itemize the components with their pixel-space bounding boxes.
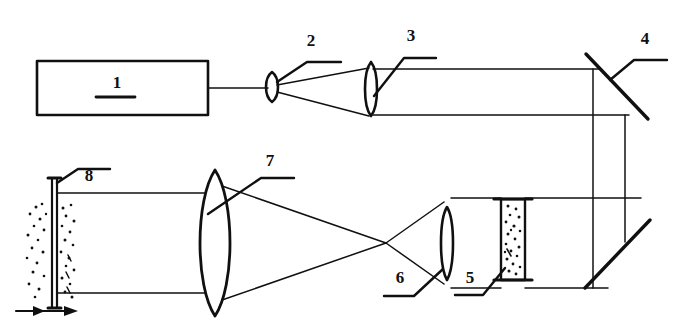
lens-2 xyxy=(266,72,278,102)
label-4: 4 xyxy=(641,29,650,48)
screen-particle-cloud xyxy=(26,203,76,299)
label-6: 6 xyxy=(396,268,405,287)
beam-cell-to-lens6 xyxy=(451,198,501,288)
optical-diagram-figure: 1 2 3 4 5 6 7 8 xyxy=(0,0,685,328)
diagram-canvas: 1 2 3 4 5 6 7 8 xyxy=(0,0,685,328)
leader-line-8 xyxy=(57,169,110,183)
leader-line-4 xyxy=(610,60,667,80)
label-3: 3 xyxy=(407,26,416,45)
laser-source-box xyxy=(37,61,208,115)
sample-cell-particles xyxy=(504,205,522,276)
label-5: 5 xyxy=(466,268,475,287)
beam-cone-lens2-to-lens3 xyxy=(277,68,369,116)
label-2: 2 xyxy=(307,31,316,50)
mirror-4 xyxy=(586,54,648,119)
label-8: 8 xyxy=(85,166,94,185)
leader-line-3 xyxy=(374,58,436,96)
lens-3 xyxy=(365,62,377,116)
component-labels: 1 2 3 4 5 6 7 8 xyxy=(85,26,650,287)
label-1: 1 xyxy=(113,73,122,92)
screen-8 xyxy=(48,178,61,308)
beam-cone-focus-to-lens7 xyxy=(222,186,386,300)
leader-line-6 xyxy=(384,269,443,296)
beam-collimated-bottom xyxy=(57,193,205,293)
label-7: 7 xyxy=(266,151,275,170)
beam-cone-lens6-to-focus xyxy=(386,202,444,284)
mirror-lower xyxy=(585,220,650,288)
beam-collimated-top xyxy=(373,69,629,115)
lens-7 xyxy=(200,170,230,316)
sample-cell-5 xyxy=(494,199,532,280)
